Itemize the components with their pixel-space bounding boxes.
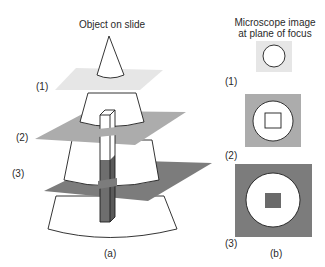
- square-outline: [265, 113, 281, 128]
- panel-b-title: Microscope image at plane of focus: [225, 17, 325, 39]
- image-label-2: (2): [225, 150, 237, 161]
- image-label-1: (1): [225, 76, 237, 87]
- panel-a-caption: (a): [104, 248, 116, 259]
- vertical-bar: [100, 110, 115, 222]
- panel-a-cone-diagram: [35, 36, 212, 238]
- microscope-image-3: [235, 164, 312, 237]
- microscope-image-2: [245, 94, 301, 147]
- circle-outline: [263, 45, 285, 67]
- panel-b-title-line1: Microscope image: [225, 17, 325, 28]
- microscope-focus-diagram: [0, 0, 325, 267]
- microscope-image-1: [256, 41, 292, 72]
- plane-label-3: (3): [12, 168, 24, 179]
- plane-label-2: (2): [16, 132, 28, 143]
- panel-b-title-line2: at plane of focus: [225, 28, 325, 39]
- cone-tip: [97, 36, 124, 78]
- panel-a-title: Object on slide: [72, 19, 152, 30]
- panel-b-caption: (b): [270, 248, 282, 259]
- filled-square: [265, 193, 281, 208]
- panel-b-microscope-images: [235, 41, 312, 237]
- image-label-3: (3): [225, 238, 237, 249]
- plane-label-1: (1): [36, 81, 48, 92]
